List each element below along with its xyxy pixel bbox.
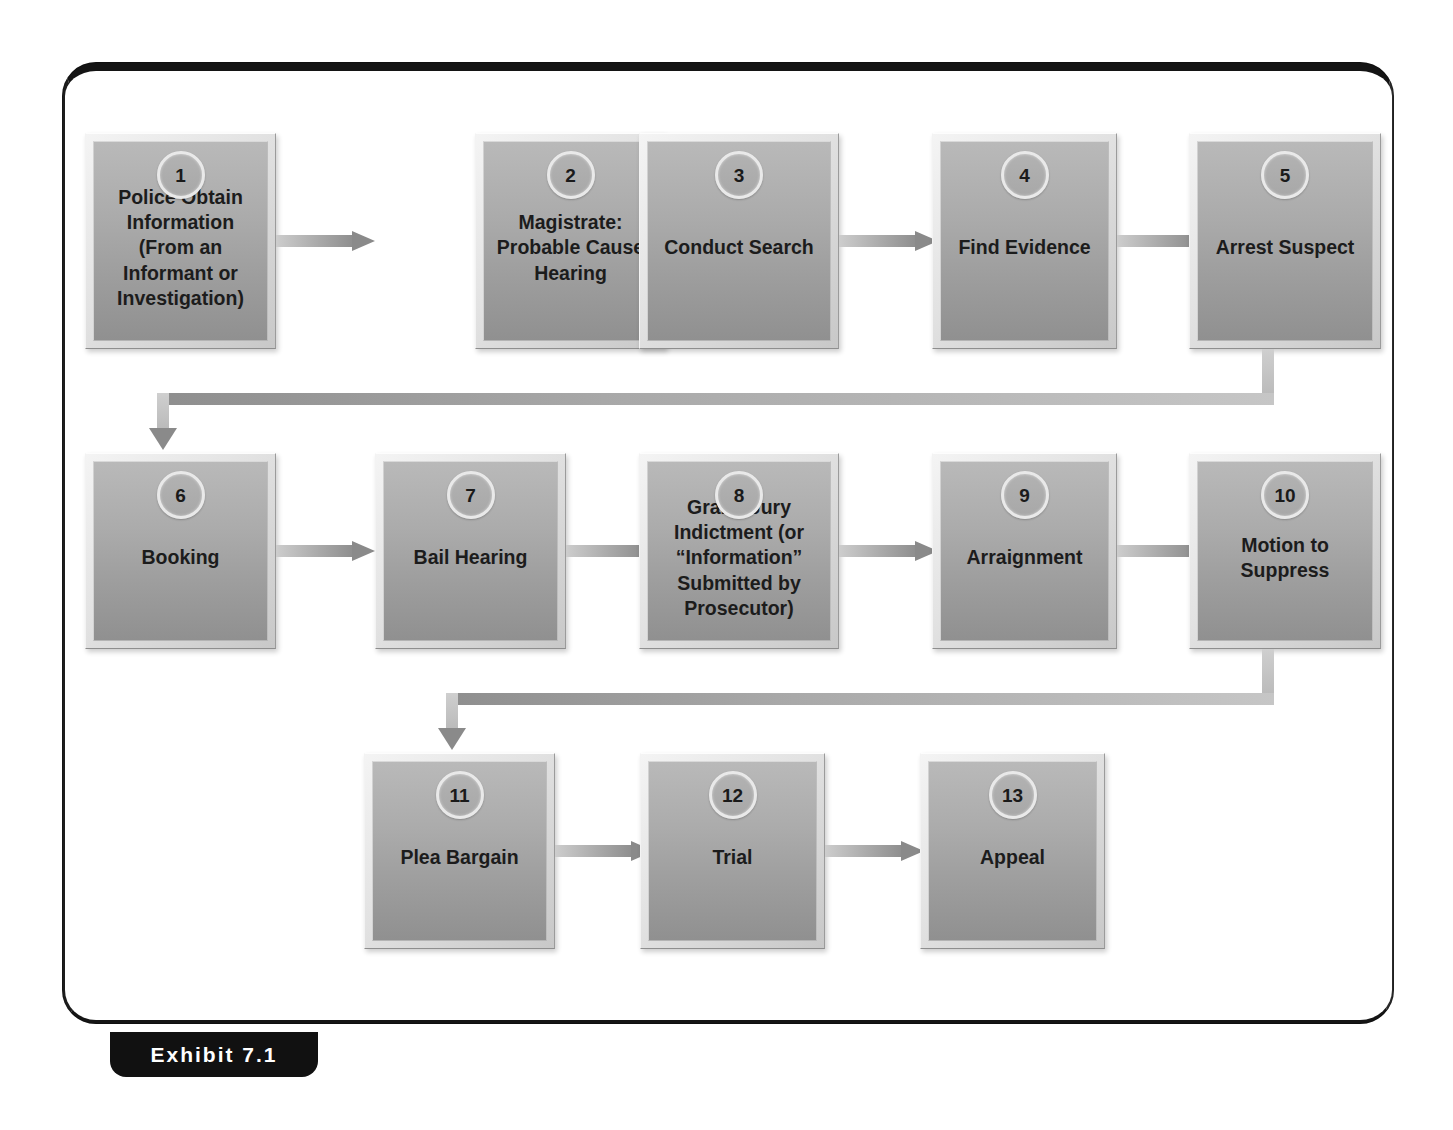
flow-node-12-label: Trial — [706, 845, 758, 870]
arrow-12-to-13 — [825, 841, 924, 861]
arrow-shaft — [276, 545, 354, 557]
step-number-badge-6: 6 — [157, 471, 205, 519]
step-number-badge-11: 11 — [436, 771, 484, 819]
arrow-6-to-7 — [276, 541, 375, 561]
connector-10-to-11-arrow-head-icon — [438, 728, 466, 750]
step-number-badge-3: 3 — [715, 151, 763, 199]
flow-node-6-body: 6 Booking — [93, 461, 268, 641]
arrow-head-icon — [352, 231, 375, 251]
flow-node-1-body: 1 Police Obtain Information (From an Inf… — [93, 141, 268, 341]
flow-node-3-body: 3 Conduct Search — [647, 141, 831, 341]
flow-node-1-label: Police Obtain Information (From an Infor… — [111, 185, 250, 312]
flow-node-10[interactable]: 10 Motion to Suppress — [1189, 453, 1381, 649]
step-number-badge-13: 13 — [989, 771, 1037, 819]
arrow-shaft — [276, 235, 354, 247]
arrow-shaft — [839, 235, 917, 247]
flow-node-10-body: 10 Motion to Suppress — [1197, 461, 1373, 641]
flow-node-13[interactable]: 13 Appeal — [920, 753, 1105, 949]
arrow-shaft — [555, 845, 633, 857]
step-number-badge-1: 1 — [157, 151, 205, 199]
flow-node-8[interactable]: 8 Grand Jury Indictment (or “Information… — [639, 453, 839, 649]
flow-node-4[interactable]: 4 Find Evidence — [932, 133, 1117, 349]
flow-node-5-body: 5 Arrest Suspect — [1197, 141, 1373, 341]
flow-node-13-body: 13 Appeal — [928, 761, 1097, 941]
flow-node-11-label: Plea Bargain — [394, 845, 524, 870]
step-number-badge-2: 2 — [547, 151, 595, 199]
flow-node-3-label: Conduct Search — [658, 235, 820, 260]
flow-node-1[interactable]: 1 Police Obtain Information (From an Inf… — [85, 133, 276, 349]
flow-node-11-body: 11 Plea Bargain — [372, 761, 547, 941]
connector-10-to-11-horizontal — [446, 693, 1274, 705]
flow-node-7-label: Bail Hearing — [408, 545, 534, 570]
arrow-3-to-4 — [839, 231, 938, 251]
flow-node-2[interactable]: 2 Magistrate: Probable Cause Hearing — [475, 133, 666, 349]
arrow-8-to-9 — [839, 541, 938, 561]
arrow-head-icon — [352, 541, 375, 561]
flow-node-9-body: 9 Arraignment — [940, 461, 1109, 641]
step-number-badge-8: 8 — [715, 471, 763, 519]
flow-node-12-body: 12 Trial — [648, 761, 817, 941]
flow-node-10-label: Motion to Suppress — [1235, 533, 1336, 584]
exhibit-label: Exhibit 7.1 — [110, 1032, 318, 1077]
connector-5-to-6-horizontal — [157, 393, 1274, 405]
flow-node-11[interactable]: 11 Plea Bargain — [364, 753, 555, 949]
arrow-shaft — [825, 845, 903, 857]
flow-node-9-label: Arraignment — [961, 545, 1089, 570]
step-number-badge-4: 4 — [1001, 151, 1049, 199]
flow-node-13-label: Appeal — [974, 845, 1051, 870]
flow-node-6[interactable]: 6 Booking — [85, 453, 276, 649]
flow-node-4-body: 4 Find Evidence — [940, 141, 1109, 341]
flow-node-2-body: 2 Magistrate: Probable Cause Hearing — [483, 141, 658, 341]
flow-node-4-label: Find Evidence — [952, 235, 1096, 260]
arrow-shaft — [1117, 545, 1195, 557]
flow-node-7-body: 7 Bail Hearing — [383, 461, 558, 641]
exhibit-figure: 1 Police Obtain Information (From an Inf… — [0, 0, 1453, 1130]
step-number-badge-10: 10 — [1261, 471, 1309, 519]
arrow-shaft — [566, 545, 644, 557]
flow-node-6-label: Booking — [136, 545, 226, 570]
connector-5-to-6-arrow-head-icon — [149, 428, 177, 450]
step-number-badge-7: 7 — [447, 471, 495, 519]
arrow-1-to-2 — [276, 231, 375, 251]
flow-node-5[interactable]: 5 Arrest Suspect — [1189, 133, 1381, 349]
flow-node-8-body: 8 Grand Jury Indictment (or “Information… — [647, 461, 831, 641]
flow-node-5-label: Arrest Suspect — [1210, 235, 1361, 260]
flow-node-9[interactable]: 9 Arraignment — [932, 453, 1117, 649]
flow-node-2-label: Magistrate: Probable Cause Hearing — [491, 210, 650, 286]
arrow-shaft — [839, 545, 917, 557]
flow-node-12[interactable]: 12 Trial — [640, 753, 825, 949]
arrow-shaft — [1117, 235, 1195, 247]
step-number-badge-9: 9 — [1001, 471, 1049, 519]
step-number-badge-12: 12 — [709, 771, 757, 819]
step-number-badge-5: 5 — [1261, 151, 1309, 199]
flow-node-7[interactable]: 7 Bail Hearing — [375, 453, 566, 649]
flow-node-3[interactable]: 3 Conduct Search — [639, 133, 839, 349]
